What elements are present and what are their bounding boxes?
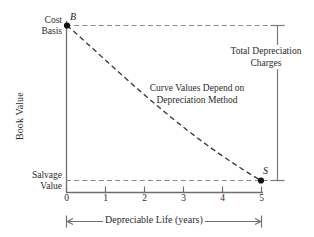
- curve-method-note-line1: Curve Values Depend on: [138, 82, 256, 94]
- x-tick-label-0: 0: [60, 194, 74, 204]
- curve-method-note: Curve Values Depend on Depreciation Meth…: [138, 82, 256, 106]
- cost-basis-point-marker: [64, 22, 70, 28]
- salvage-value-label: Salvage Value: [8, 170, 62, 192]
- x-tick-label-1: 1: [99, 194, 113, 204]
- x-tick-label-4: 4: [216, 194, 230, 204]
- total-depreciation-charges-line2: Charges: [219, 57, 313, 69]
- salvage-value-point-label: S: [263, 166, 268, 177]
- x-tick-label-2: 2: [138, 194, 152, 204]
- x-tick-label-5: 5: [255, 194, 269, 204]
- x-axis-title: Depreciable Life (years): [103, 215, 205, 226]
- curve-method-note-line2: Depreciation Method: [138, 94, 256, 106]
- salvage-value-label-line1: Salvage: [8, 170, 62, 181]
- salvage-value-point-marker: [258, 177, 264, 183]
- depreciation-book-value-chart: Book Value Cost Basis Salvage Value B S …: [0, 0, 314, 237]
- y-axis-title: Book Value: [15, 92, 26, 140]
- cost-basis-label: Cost Basis: [14, 15, 62, 37]
- salvage-value-label-line2: Value: [8, 181, 62, 192]
- x-tick-label-3: 3: [177, 194, 191, 204]
- total-depreciation-charges-note: Total Depreciation Charges: [219, 45, 313, 69]
- cost-basis-label-line2: Basis: [14, 26, 62, 37]
- cost-basis-point-label: B: [70, 12, 76, 23]
- cost-basis-label-line1: Cost: [14, 15, 62, 26]
- total-depreciation-charges-line1: Total Depreciation: [219, 45, 313, 57]
- x-axis-ticks: [67, 187, 262, 193]
